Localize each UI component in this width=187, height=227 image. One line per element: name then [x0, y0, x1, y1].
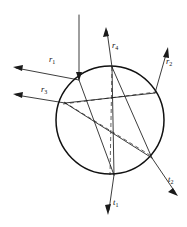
reflected-ray-r4-arrowhead: [103, 27, 109, 37]
ray-label-r1: r1: [49, 54, 55, 65]
transmitted-ray-t2: [152, 158, 175, 192]
reflected-ray-r3-arrowhead: [13, 92, 23, 98]
reflected-ray-r1: [16, 68, 79, 80]
transmitted-ray-t1-arrowhead: [105, 204, 111, 215]
ray-t2-group: [152, 158, 178, 196]
droplet-boundary: [56, 66, 164, 174]
chord-entry-to-right: [65, 93, 155, 103]
chord-left-to-lowerright: [65, 103, 152, 158]
figure-root: r1 r3 r4 r2 t1 t2: [0, 0, 187, 227]
ray-r1-group: [13, 65, 79, 80]
ray-r3-group: [13, 92, 65, 103]
ray-label-r2: r2: [166, 56, 172, 67]
ray-label-r3: r3: [41, 84, 47, 95]
normal-line-top: [110, 67, 112, 175]
ray-diagram: r1 r3 r4 r2 t1 t2: [0, 0, 187, 227]
normal-lines-group: [63, 67, 156, 175]
ray-label-r4: r4: [112, 40, 118, 51]
ray-labels-group: r1 r3 r4 r2 t1 t2: [41, 40, 173, 208]
reflected-ray-r1-arrowhead: [13, 65, 23, 71]
transmitted-ray-t2-arrowhead: [168, 188, 178, 196]
ray-t1-group: [105, 175, 114, 215]
ray-label-t2: t2: [168, 174, 173, 185]
ray-label-t1: t1: [113, 197, 118, 208]
incident-ray-group: [76, 15, 82, 81]
ray-r2-group: [155, 47, 169, 93]
reflected-ray-r3: [16, 95, 65, 103]
chord-entry-to-bottom: [79, 80, 114, 175]
ray-r4-group: [103, 27, 112, 67]
chord-bottom-to-top: [112, 67, 114, 175]
